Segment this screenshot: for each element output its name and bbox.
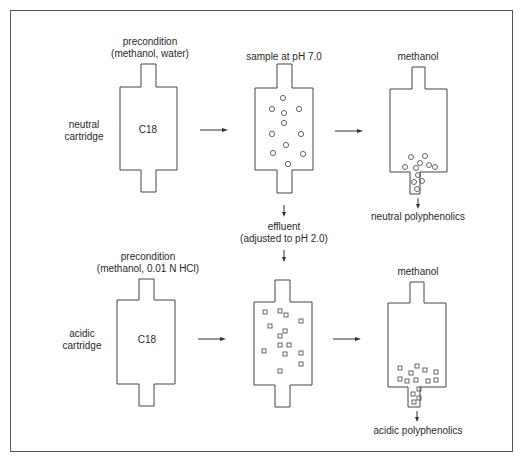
acidic-precondition-title: precondition (methanol, 0.01 N HCl) xyxy=(97,251,199,275)
acidic-sample-cartridge xyxy=(254,280,312,407)
title-line: (adjusted to pH 2.0) xyxy=(240,233,328,245)
effluent-title: effluent (adjusted to pH 2.0) xyxy=(240,221,328,245)
row-label-neutral: neutral cartridge xyxy=(65,119,104,143)
acidic-eluted-particles xyxy=(398,364,438,404)
title-line: effluent xyxy=(240,221,328,233)
neutral-output-label: neutral polyphenolics xyxy=(371,211,465,223)
arrow-down-icon xyxy=(282,250,286,262)
arrow-down-icon xyxy=(415,411,419,422)
acidic-particles xyxy=(262,309,303,373)
row-label-line: cartridge xyxy=(65,131,104,143)
neutral-particles xyxy=(269,95,305,166)
neutral-sample-cartridge xyxy=(255,64,313,193)
arrow-down-icon xyxy=(416,198,420,209)
title-line: precondition xyxy=(111,36,189,48)
arrow-right-icon xyxy=(335,129,363,133)
acidic-output-label: acidic polyphenolics xyxy=(374,425,463,437)
acidic-elution-title: methanol xyxy=(397,266,438,278)
neutral-sample-title: sample at pH 7.0 xyxy=(246,51,322,63)
arrow-right-icon xyxy=(333,337,361,341)
neutral-elution-title: methanol xyxy=(397,51,438,63)
row-label-line: cartridge xyxy=(63,340,102,352)
neutral-elution-cartridge xyxy=(390,67,447,194)
neutral-precondition-title: precondition (methanol, water) xyxy=(111,36,189,60)
title-line: (methanol, water) xyxy=(111,48,189,60)
title-line: (methanol, 0.01 N HCl) xyxy=(97,263,199,275)
row-label-line: neutral xyxy=(65,119,104,131)
arrow-right-icon xyxy=(200,128,228,132)
arrow-right-icon xyxy=(198,337,226,341)
acidic-c18-label: C18 xyxy=(138,334,156,346)
row-label-line: acidic xyxy=(63,328,102,340)
title-line: precondition xyxy=(97,251,199,263)
neutral-c18-label: C18 xyxy=(139,124,157,136)
row-label-acidic: acidic cartridge xyxy=(63,328,102,352)
arrow-down-icon xyxy=(282,205,286,217)
